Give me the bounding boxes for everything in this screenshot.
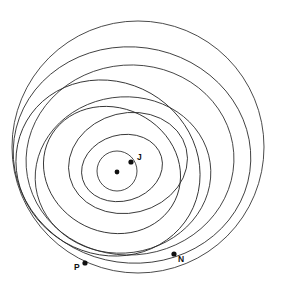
body-label-j: J [137, 152, 142, 162]
orbit-ellipse [12, 21, 264, 273]
orbit-diagram-canvas: JNP [0, 0, 281, 294]
orbit-ellipse [25, 86, 221, 265]
orbit-ellipse [73, 125, 170, 211]
body-dot-n [171, 251, 176, 256]
body-label-p: P [74, 262, 80, 272]
body-label-n: N [178, 254, 184, 264]
orbit-ellipse [58, 100, 199, 226]
orbit-paths-group [0, 21, 265, 289]
orbit-diagram-figure: JNP [0, 0, 281, 294]
body-dot-j [128, 159, 133, 164]
body-dot-p [82, 260, 87, 265]
body-dot-center [115, 170, 120, 175]
